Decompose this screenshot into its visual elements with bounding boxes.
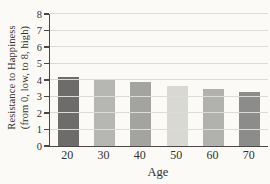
plot-area	[49, 14, 268, 147]
y-tick-mark	[44, 13, 49, 14]
bar-age-40	[130, 82, 151, 146]
y-tick-label: 3	[20, 90, 42, 103]
y-tick-mark	[44, 46, 49, 47]
y-tick-label: 4	[20, 74, 42, 87]
bar-age-60	[203, 89, 224, 146]
gridline	[50, 129, 268, 130]
gridline	[50, 30, 268, 31]
x-tick-label: 20	[49, 149, 85, 162]
x-tick-label: 50	[158, 149, 194, 162]
y-tick-label: 5	[20, 57, 42, 70]
y-tick-label: 2	[20, 107, 42, 120]
y-tick-mark	[44, 145, 49, 146]
y-tick-label: 0	[20, 140, 42, 153]
y-tick-mark	[44, 129, 49, 130]
x-tick-labels: 203040506070	[49, 149, 267, 162]
y-tick-mark	[44, 96, 49, 97]
gridline	[50, 96, 268, 97]
gridline	[50, 63, 268, 64]
bar-chart-figure: Resistance to Happiness (from 0, low, to…	[0, 0, 270, 184]
gridline	[50, 112, 268, 113]
bars-container	[50, 14, 268, 146]
y-tick-label: 1	[20, 123, 42, 136]
gridline	[50, 13, 268, 14]
y-tick-label: 7	[20, 24, 42, 37]
y-tick-label: 8	[20, 8, 42, 21]
x-tick-label: 70	[231, 149, 267, 162]
bar-age-30	[94, 80, 115, 146]
y-axis-title-line1: Resistance to Happiness	[5, 3, 18, 153]
x-tick-label: 40	[122, 149, 158, 162]
gridline	[50, 79, 268, 80]
x-tick-label: 60	[194, 149, 230, 162]
y-tick-mark	[44, 30, 49, 31]
gridline	[50, 46, 268, 47]
y-tick-mark	[44, 112, 49, 113]
x-tick-label: 30	[85, 149, 121, 162]
bar-age-70	[239, 92, 260, 146]
y-tick-mark	[44, 63, 49, 64]
y-tick-mark	[44, 79, 49, 80]
y-tick-label: 6	[20, 41, 42, 54]
x-axis-title: Age	[49, 165, 267, 180]
